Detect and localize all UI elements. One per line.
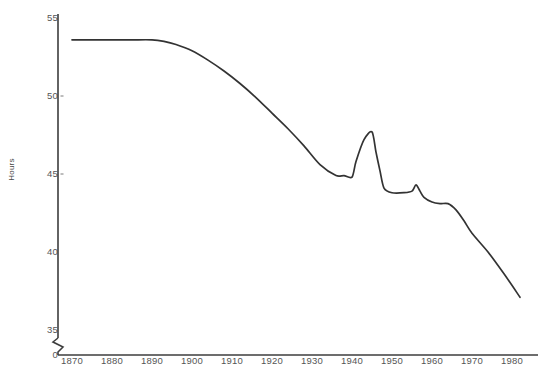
y-axis-break-marker (53, 338, 63, 355)
axis-lines (53, 14, 538, 355)
plot-area (0, 0, 545, 384)
chart-container: Hours 55504540350 1870188018901900191019… (0, 0, 545, 384)
y-axis-minor-ticks (61, 96, 64, 174)
data-series-line (72, 40, 520, 297)
